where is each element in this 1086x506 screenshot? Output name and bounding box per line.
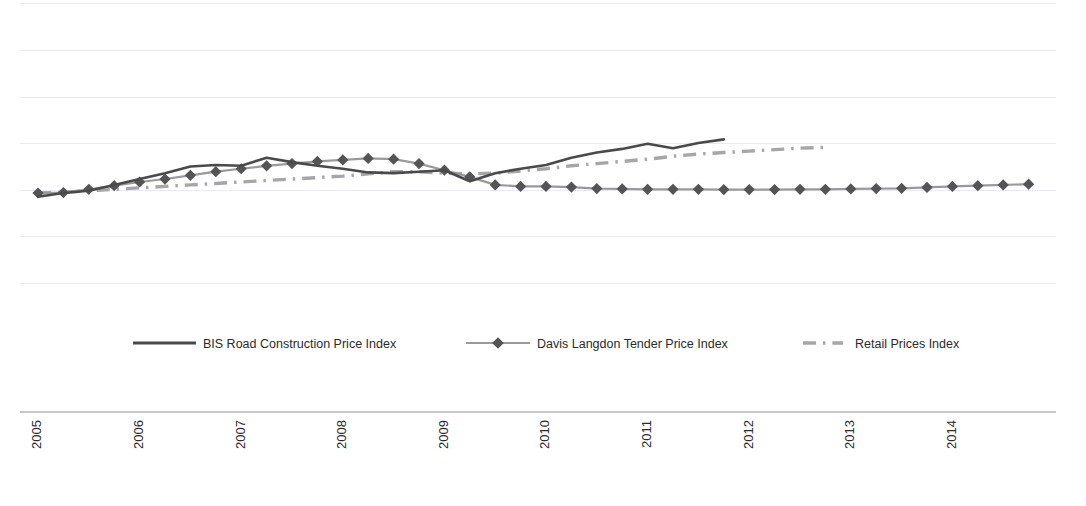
data-point-marker <box>490 179 501 190</box>
x-axis-tick-label-2014: 2014 <box>944 420 959 449</box>
gridlines <box>20 3 1056 283</box>
data-point-marker <box>388 154 399 165</box>
data-point-marker <box>210 166 221 177</box>
data-point-marker <box>693 184 704 195</box>
diamond-marker-icon <box>492 337 504 349</box>
data-point-marker <box>185 170 196 181</box>
x-axis-tick-label-2011: 2011 <box>639 420 654 448</box>
x-axis-tick-label-2010: 2010 <box>537 420 552 449</box>
x-axis-tick-label-2012: 2012 <box>741 420 756 449</box>
data-point-marker <box>337 154 348 165</box>
data-point-marker <box>617 183 628 194</box>
x-axis-tick-label-2009: 2009 <box>436 420 451 449</box>
data-point-marker <box>921 182 932 193</box>
data-point-marker <box>845 183 856 194</box>
line-chart: BIS Road Construction Price Index Davis … <box>0 0 1086 506</box>
x-axis-tick-label-2006: 2006 <box>131 420 146 449</box>
data-point-marker <box>261 160 272 171</box>
data-point-marker <box>566 182 577 193</box>
data-point-marker <box>363 153 374 164</box>
data-point-marker <box>413 158 424 169</box>
legend-item-label-bis: BIS Road Construction Price Index <box>203 337 397 351</box>
data-point-marker <box>794 184 805 195</box>
data-point-marker <box>998 179 1009 190</box>
data-point-marker <box>718 184 729 195</box>
data-point-marker <box>1023 179 1034 190</box>
data-point-marker <box>896 183 907 194</box>
legend-item-label-davis-langdon: Davis Langdon Tender Price Index <box>537 337 729 351</box>
data-point-marker <box>642 184 653 195</box>
x-axis-tick-label-2013: 2013 <box>842 420 857 449</box>
data-point-marker <box>591 183 602 194</box>
data-point-marker <box>744 184 755 195</box>
x-axis-tick-labels: 2005200620072008200920102011201220132014 <box>29 420 958 449</box>
x-axis-tick-label-2007: 2007 <box>233 420 248 449</box>
data-point-marker <box>769 184 780 195</box>
data-point-marker <box>871 183 882 194</box>
legend: BIS Road Construction Price Index Davis … <box>133 337 960 351</box>
legend-item-label-retail-prices: Retail Prices Index <box>855 337 960 351</box>
data-point-marker <box>820 184 831 195</box>
data-point-marker <box>667 184 678 195</box>
chart-container: BIS Road Construction Price Index Davis … <box>0 0 1086 506</box>
x-axis-tick-label-2005: 2005 <box>29 420 44 449</box>
x-axis-tick-label-2008: 2008 <box>334 420 349 449</box>
